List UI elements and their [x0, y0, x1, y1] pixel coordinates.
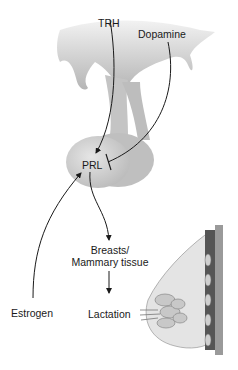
dopamine-label: Dopamine — [138, 28, 186, 40]
breasts-label-line1: Breasts/ — [70, 244, 150, 256]
breast-illustration — [140, 225, 223, 355]
hypothalamus-shape — [57, 21, 215, 90]
prl-label: PRL — [82, 159, 102, 171]
breasts-label: Breasts/ Mammary tissue — [70, 244, 150, 268]
estrogen-arrow — [33, 173, 81, 298]
pituitary-stalk — [105, 75, 150, 140]
estrogen-label: Estrogen — [11, 307, 53, 319]
prolactin-regulation-diagram: TRH Dopamine PRL Breasts/ Mammary tissue… — [0, 0, 238, 370]
breasts-label-line2: Mammary tissue — [70, 256, 150, 268]
trh-label: TRH — [98, 17, 120, 29]
lactation-label: Lactation — [88, 308, 131, 320]
